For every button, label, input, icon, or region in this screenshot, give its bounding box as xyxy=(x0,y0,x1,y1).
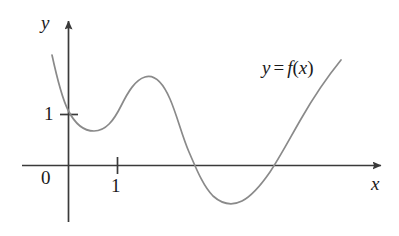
y-axis-tick-label-1: 1 xyxy=(44,104,54,123)
graph-figure: y x 0 1 1 y=f(x) xyxy=(0,0,399,236)
curve-equation-operator: = xyxy=(270,57,287,78)
x-axis-label: x xyxy=(371,174,379,193)
graph-canvas xyxy=(0,0,399,236)
x-axis-tick-label-1: 1 xyxy=(111,176,121,195)
curve-equation-label: y=f(x) xyxy=(262,58,314,77)
origin-label: 0 xyxy=(41,168,51,187)
curve-equation-argument: x xyxy=(299,57,307,78)
y-axis-label: y xyxy=(41,13,49,32)
curve-equation-paren-close: ) xyxy=(307,57,313,78)
